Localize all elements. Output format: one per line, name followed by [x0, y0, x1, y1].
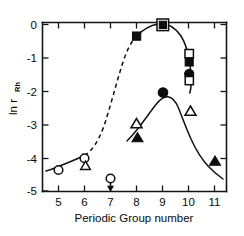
x-tick-marks-top: [59, 23, 215, 29]
marker-cluster-group10-lower: [185, 69, 194, 84]
upper-curve-left-solid: [46, 156, 85, 172]
marker-filled-triangle: [210, 156, 221, 165]
marker-open-square: [185, 50, 193, 58]
x-tick-label: 5: [55, 196, 61, 208]
y-axis-title-text: ln r: [7, 99, 19, 115]
marker-cluster-group10-upper: [185, 50, 193, 67]
chart-figure: 5 6 7 8 9 10 11 0 -1 -2 -3 -4 -5 Periodi…: [0, 0, 244, 236]
y-tick-marks: [43, 25, 49, 192]
marker-open-square: [185, 77, 193, 85]
scatter-plot: 5 6 7 8 9 10 11 0 -1 -2 -3 -4 -5 Periodi…: [0, 0, 244, 236]
marker-square-pair: [157, 19, 169, 31]
x-tick-label: 7: [107, 196, 113, 208]
plot-frame: [43, 23, 227, 192]
marker-filled-square: [159, 21, 166, 28]
y-tick-marks-right: [221, 25, 227, 159]
y-tick-label: 0: [31, 19, 37, 31]
marker-filled-square: [185, 58, 193, 66]
y-tick-label: -3: [27, 119, 37, 131]
y-tick-label: -1: [27, 52, 37, 64]
x-tick-label: 9: [159, 196, 165, 208]
marker-filled-square: [133, 32, 141, 40]
x-tick-labels: 5 6 7 8 9 10 11: [55, 196, 220, 208]
x-tick-label: 8: [133, 196, 139, 208]
y-tick-label: -4: [27, 153, 38, 165]
marker-upper-limit: [106, 174, 115, 192]
lower-curve-solid: [127, 97, 223, 179]
y-tick-labels: 0 -1 -2 -3 -4 -5: [27, 19, 38, 198]
marker-open-triangle: [131, 119, 142, 128]
y-tick-label: -2: [27, 86, 37, 98]
upper-curve-solid: [137, 24, 192, 93]
marker-open-circle: [106, 174, 115, 183]
marker-open-triangle: [185, 106, 196, 115]
x-tick-label: 10: [182, 196, 195, 208]
y-axis-title-subscript: Rh: [13, 82, 22, 92]
x-tick-marks: [59, 186, 215, 192]
upper-curve-dashed: [85, 36, 137, 156]
x-tick-label: 11: [209, 196, 221, 208]
marker-open-circle: [80, 154, 89, 163]
y-axis-title: ln r Rh: [7, 82, 22, 115]
x-tick-label: 6: [81, 196, 87, 208]
marker-open-circle: [54, 166, 63, 175]
x-axis-title: Periodic Group number: [75, 212, 194, 224]
y-tick-label: -5: [27, 185, 37, 197]
marker-filled-circle: [158, 88, 168, 98]
